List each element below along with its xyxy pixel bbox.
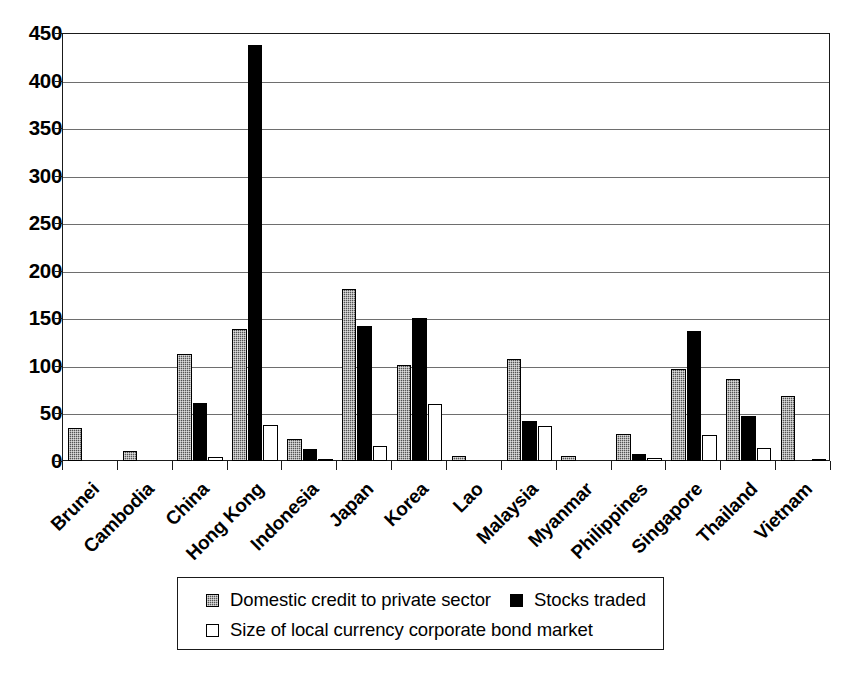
bar-group bbox=[611, 33, 666, 461]
bar-group bbox=[720, 33, 775, 461]
bar bbox=[373, 446, 388, 461]
bars-layer bbox=[62, 33, 830, 461]
bar bbox=[68, 428, 83, 461]
bar bbox=[263, 425, 278, 461]
legend-item-label: Size of local currency corporate bond ma… bbox=[230, 621, 593, 640]
legend-swatch-icon bbox=[206, 594, 219, 607]
bar bbox=[781, 396, 796, 461]
bar bbox=[193, 403, 208, 461]
chart-legend: Domestic credit to private sector Stocks… bbox=[177, 577, 664, 650]
bar-group bbox=[391, 33, 446, 461]
bar bbox=[428, 404, 443, 461]
bar bbox=[741, 416, 756, 461]
bar bbox=[726, 379, 741, 461]
bar bbox=[671, 369, 686, 461]
legend-item-label: Domestic credit to private sector bbox=[230, 591, 491, 610]
bar bbox=[232, 329, 247, 461]
bar-group bbox=[117, 33, 172, 461]
bar-group bbox=[556, 33, 611, 461]
bar bbox=[687, 331, 702, 461]
bar-group bbox=[665, 33, 720, 461]
legend-item-bond-market: Size of local currency corporate bond ma… bbox=[206, 621, 593, 640]
bar bbox=[522, 421, 537, 461]
bar bbox=[702, 435, 717, 461]
bar bbox=[412, 318, 427, 461]
bar-group bbox=[281, 33, 336, 461]
bar bbox=[248, 45, 263, 461]
bar bbox=[123, 451, 138, 461]
bar bbox=[303, 449, 318, 461]
bar bbox=[616, 434, 631, 461]
bar bbox=[357, 326, 372, 461]
bar-group bbox=[775, 33, 830, 461]
bar bbox=[507, 359, 522, 461]
bar-group bbox=[172, 33, 227, 461]
legend-row: Size of local currency corporate bond ma… bbox=[178, 615, 663, 645]
bar bbox=[342, 289, 357, 461]
legend-item-stocks-traded: Stocks traded bbox=[510, 591, 646, 610]
legend-row: Domestic credit to private sector Stocks… bbox=[178, 585, 663, 615]
bar bbox=[287, 439, 302, 461]
bar bbox=[757, 448, 772, 461]
bar bbox=[632, 454, 647, 461]
bar-chart: 050100150200250300350400450 BruneiCambod… bbox=[0, 0, 846, 682]
legend-item-label: Stocks traded bbox=[534, 591, 646, 610]
bar-group bbox=[501, 33, 556, 461]
legend-item-domestic-credit: Domestic credit to private sector bbox=[206, 591, 491, 610]
legend-swatch-icon bbox=[510, 594, 523, 607]
bar-group bbox=[62, 33, 117, 461]
bar bbox=[177, 354, 192, 461]
bar-group bbox=[446, 33, 501, 461]
bar bbox=[397, 365, 412, 461]
bar-group bbox=[336, 33, 391, 461]
legend-swatch-icon bbox=[206, 624, 219, 637]
x-axis-labels: BruneiCambodiaChinaHong KongIndonesiaJap… bbox=[0, 461, 846, 571]
bar bbox=[538, 426, 553, 461]
bar-group bbox=[227, 33, 282, 461]
